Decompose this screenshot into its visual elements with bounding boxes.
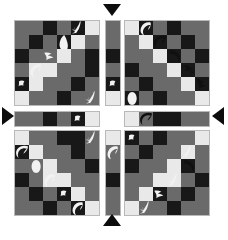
- grid-cell[interactable]: [125, 112, 139, 126]
- grid-cell[interactable]: [71, 49, 85, 63]
- grid-top-left[interactable]: [14, 20, 100, 106]
- strip-vertical-top[interactable]: [105, 20, 121, 106]
- grid-cell[interactable]: [181, 49, 195, 63]
- grid-cell[interactable]: [15, 112, 29, 126]
- grid-cell[interactable]: [106, 131, 120, 145]
- grid-cell[interactable]: [57, 131, 71, 145]
- grid-cell[interactable]: [181, 77, 195, 91]
- grid-cell[interactable]: [139, 35, 153, 49]
- grid-cell[interactable]: [125, 173, 139, 187]
- grid-cell[interactable]: [29, 21, 43, 35]
- grid-cell[interactable]: [153, 91, 167, 105]
- grid-cell[interactable]: [167, 187, 181, 201]
- grid-cell[interactable]: [85, 173, 99, 187]
- grid-cell[interactable]: [125, 145, 139, 159]
- grid-cell[interactable]: [57, 112, 71, 126]
- grid-cell[interactable]: [139, 159, 153, 173]
- grid-cell[interactable]: [71, 145, 85, 159]
- grid-cell[interactable]: [181, 35, 195, 49]
- grid-cell[interactable]: [43, 77, 57, 91]
- grid-cell[interactable]: [139, 63, 153, 77]
- grid-top-right[interactable]: [124, 20, 210, 106]
- grid-cell[interactable]: [85, 35, 99, 49]
- grid-cell[interactable]: [195, 77, 209, 91]
- grid-cell[interactable]: [106, 159, 120, 173]
- grid-cell[interactable]: [167, 35, 181, 49]
- grid-cell[interactable]: [195, 49, 209, 63]
- grid-cell[interactable]: [167, 131, 181, 145]
- grid-cell[interactable]: [106, 145, 120, 159]
- grid-cell[interactable]: [43, 49, 57, 63]
- grid-cell[interactable]: [153, 173, 167, 187]
- grid-cell[interactable]: [85, 131, 99, 145]
- grid-cell[interactable]: [139, 131, 153, 145]
- arrow-left-marker[interactable]: [212, 107, 224, 125]
- grid-cell[interactable]: [181, 201, 195, 215]
- grid-cell[interactable]: [125, 201, 139, 215]
- grid-cell[interactable]: [29, 77, 43, 91]
- grid-cell[interactable]: [15, 35, 29, 49]
- strip-vertical-bottom[interactable]: [105, 130, 121, 216]
- grid-cell[interactable]: [43, 63, 57, 77]
- grid-cell[interactable]: [43, 201, 57, 215]
- grid-cell[interactable]: [15, 21, 29, 35]
- grid-cell[interactable]: [167, 63, 181, 77]
- grid-cell[interactable]: [167, 159, 181, 173]
- grid-cell[interactable]: [181, 159, 195, 173]
- grid-cell[interactable]: [43, 21, 57, 35]
- grid-cell[interactable]: [29, 91, 43, 105]
- grid-bottom-left[interactable]: [14, 130, 100, 216]
- grid-cell[interactable]: [71, 187, 85, 201]
- grid-cell[interactable]: [85, 112, 99, 126]
- grid-cell[interactable]: [85, 21, 99, 35]
- grid-cell[interactable]: [195, 159, 209, 173]
- grid-cell[interactable]: [125, 63, 139, 77]
- grid-cell[interactable]: [167, 112, 181, 126]
- grid-cell[interactable]: [57, 145, 71, 159]
- grid-cell[interactable]: [57, 63, 71, 77]
- grid-cell[interactable]: [15, 49, 29, 63]
- grid-cell[interactable]: [57, 159, 71, 173]
- strip-horizontal-left[interactable]: [14, 111, 100, 127]
- grid-cell[interactable]: [29, 63, 43, 77]
- grid-cell[interactable]: [15, 63, 29, 77]
- grid-cell[interactable]: [29, 49, 43, 63]
- grid-cell[interactable]: [43, 112, 57, 126]
- grid-cell[interactable]: [181, 112, 195, 126]
- grid-cell[interactable]: [181, 21, 195, 35]
- grid-cell[interactable]: [71, 21, 85, 35]
- grid-cell[interactable]: [106, 201, 120, 215]
- grid-cell[interactable]: [15, 173, 29, 187]
- grid-cell[interactable]: [195, 21, 209, 35]
- grid-cell[interactable]: [43, 187, 57, 201]
- grid-cell[interactable]: [15, 159, 29, 173]
- grid-cell[interactable]: [57, 35, 71, 49]
- grid-cell[interactable]: [153, 201, 167, 215]
- grid-cell[interactable]: [57, 91, 71, 105]
- grid-cell[interactable]: [167, 49, 181, 63]
- grid-cell[interactable]: [43, 159, 57, 173]
- grid-cell[interactable]: [195, 91, 209, 105]
- grid-cell[interactable]: [106, 35, 120, 49]
- grid-cell[interactable]: [29, 131, 43, 145]
- grid-cell[interactable]: [125, 49, 139, 63]
- strip-horizontal-right[interactable]: [124, 111, 210, 127]
- grid-cell[interactable]: [195, 112, 209, 126]
- grid-cell[interactable]: [71, 112, 85, 126]
- grid-cell[interactable]: [15, 131, 29, 145]
- grid-cell[interactable]: [195, 35, 209, 49]
- grid-cell[interactable]: [125, 91, 139, 105]
- grid-cell[interactable]: [153, 159, 167, 173]
- grid-cell[interactable]: [139, 77, 153, 91]
- grid-cell[interactable]: [106, 21, 120, 35]
- grid-cell[interactable]: [106, 77, 120, 91]
- grid-cell[interactable]: [15, 77, 29, 91]
- grid-cell[interactable]: [106, 91, 120, 105]
- grid-cell[interactable]: [167, 145, 181, 159]
- grid-cell[interactable]: [195, 187, 209, 201]
- grid-cell[interactable]: [181, 131, 195, 145]
- grid-cell[interactable]: [71, 35, 85, 49]
- grid-cell[interactable]: [153, 49, 167, 63]
- grid-cell[interactable]: [57, 201, 71, 215]
- grid-cell[interactable]: [195, 131, 209, 145]
